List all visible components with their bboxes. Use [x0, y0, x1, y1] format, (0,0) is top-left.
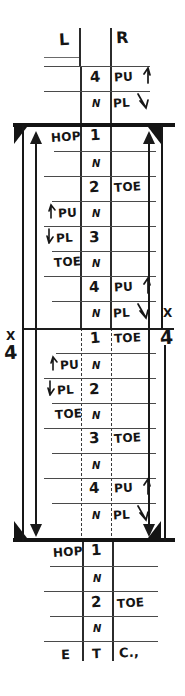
cell-right-r01: PU: [114, 71, 134, 84]
cell-center-r21: 2: [91, 595, 102, 611]
col-rule-left-c: [82, 541, 84, 661]
cell-center-r02: N: [92, 99, 101, 109]
cell-right-r11: TOE: [114, 331, 142, 344]
cell-right-r02: PL: [113, 97, 130, 110]
col-rule-right-a: [110, 28, 112, 328]
cell-left-r03: HOP: [51, 130, 81, 144]
cell-right-r18: PL: [113, 509, 130, 522]
cell-right-r09: PU: [114, 281, 134, 294]
row-rule-20: [50, 566, 158, 567]
row-rule-07: [44, 226, 156, 227]
col-rule-left-a: [80, 66, 82, 328]
row-rule-04: [54, 151, 156, 152]
cell-left-r19: HOP: [53, 545, 83, 559]
left-measure-arrow-head-down: [30, 524, 42, 537]
arrow-up-icon-r01: [137, 66, 151, 88]
arrow-up-icon-r17: [137, 477, 151, 499]
cell-center-r20: N: [93, 574, 102, 584]
right-frame-stroke-upper: [161, 125, 163, 329]
arrow-down-icon-r18: [135, 504, 150, 527]
repeat-count-left: 4: [3, 343, 18, 363]
cell-center-r17: 4: [89, 481, 100, 497]
row-rule-15: [44, 428, 156, 429]
row-rule-08: [52, 251, 156, 252]
footer-center: T: [92, 647, 102, 660]
cell-right-r21: TOE: [117, 596, 145, 610]
notation-sheet: L R: [0, 0, 185, 696]
cell-left-r12: PU: [60, 359, 80, 372]
right-measure-arrow-head-up: [143, 131, 155, 144]
cell-left-r14: TOE: [55, 407, 83, 421]
cell-center-r04: N: [92, 159, 101, 169]
cell-center-r06: N: [92, 209, 101, 219]
row-rule-14: [52, 403, 156, 404]
repeat-mark-right-x: X: [163, 307, 172, 319]
arrow-up-icon-r09: [137, 276, 151, 298]
column-header-right: R: [116, 30, 129, 46]
cell-center-r07: 3: [89, 230, 100, 245]
cell-center-r05: 2: [89, 180, 100, 196]
cell-left-r08: TOE: [54, 255, 82, 269]
right-measure-arrow-shaft: [148, 141, 150, 533]
row-rule-16: [52, 453, 156, 454]
left-frame-stroke: [22, 125, 24, 541]
column-header-left: L: [59, 32, 70, 49]
row-rule-footer: [44, 641, 158, 642]
cell-left-r07: PL: [56, 232, 73, 245]
cell-center-r01: 4: [89, 70, 101, 86]
cell-center-r12: N: [92, 361, 101, 371]
cell-center-r13: 2: [89, 382, 100, 397]
row-rule-05: [44, 176, 156, 177]
cell-center-r19: 1: [91, 543, 102, 559]
row-rule-12: [56, 353, 156, 354]
cell-left-r13: PL: [57, 384, 74, 397]
cell-center-r03: 1: [90, 128, 101, 144]
top-beam-left-corner: [14, 127, 27, 144]
row-rule-06: [52, 201, 156, 202]
cell-center-r08: N: [92, 259, 101, 269]
left-measure-arrow-head-up: [30, 131, 42, 144]
cell-center-r10: N: [92, 309, 101, 319]
footer-left: E: [61, 648, 71, 661]
right-frame-stroke-lower: [164, 345, 166, 541]
left-measure-arrow-shaft: [35, 141, 37, 533]
cell-center-r15: 3: [89, 431, 100, 447]
arrow-down-icon-r02: [135, 92, 150, 115]
cell-right-r05: TOE: [114, 180, 142, 194]
cell-right-r17: PU: [114, 482, 134, 495]
cell-center-r22: N: [93, 624, 102, 634]
col-rule-right-c: [112, 541, 114, 661]
cell-center-r16: N: [92, 461, 101, 471]
footer-right: C.,: [119, 645, 140, 659]
cell-center-r14: N: [92, 411, 101, 421]
cell-center-r11: 1: [89, 331, 101, 347]
cell-center-r18: N: [92, 511, 101, 521]
arrow-down-icon-r10: [135, 302, 150, 325]
row-rule-22: [50, 616, 158, 617]
cell-right-r15: TOE: [114, 431, 142, 445]
cell-left-r06: PU: [58, 207, 78, 220]
header-underline: [44, 57, 80, 58]
cell-right-r10: PL: [113, 307, 130, 320]
bottom-beam-left-corner: [14, 521, 27, 538]
col-rule-left-b: [81, 328, 82, 541]
row-rule-13: [44, 378, 156, 379]
col-rule-left-top: [79, 28, 81, 66]
cell-center-r09: 4: [89, 280, 100, 296]
repeat-count-right: 4: [160, 328, 174, 348]
